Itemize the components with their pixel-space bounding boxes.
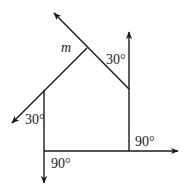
label-line-m: m [61,40,71,55]
label-angle-bottom-left: 90° [51,156,71,171]
geometry-diagram: m 30° 30° 90° 90° [0,0,188,193]
label-angle-left: 30° [25,112,45,127]
line-m [12,48,87,123]
label-angle-bottom-right: 90° [135,134,155,149]
diagram-canvas: m 30° 30° 90° 90° [0,0,188,193]
label-angle-top-right: 30° [106,52,126,67]
